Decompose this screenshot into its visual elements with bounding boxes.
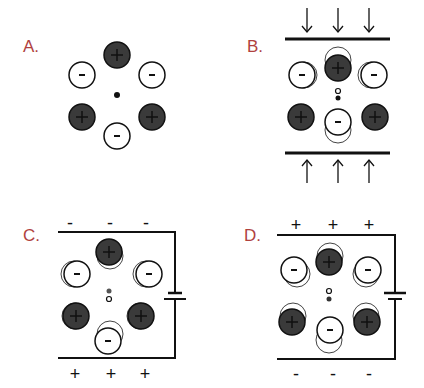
panel-b: B. [247,8,390,183]
panel-a: A. [23,37,165,149]
negative-ion [281,257,307,283]
charge-center [114,92,120,98]
plate-charge: + [140,364,151,384]
panel-label-d: D. [244,226,261,245]
positive-charge-center [327,297,332,302]
positive-charge-center [336,96,341,101]
negative-ion [64,261,90,287]
plate-charge: - [293,364,299,384]
negative-charge-center [336,89,341,94]
plate-charge: + [364,215,375,235]
panel-label-a: A. [23,37,39,56]
positive-ion [288,104,314,130]
positive-ion [128,303,154,329]
positive-ion [96,239,122,265]
positive-ion [139,104,165,130]
positive-ion [316,249,342,275]
positive-ion [69,104,95,130]
negative-ion [104,123,130,149]
negative-ion [355,257,381,283]
plate-charge: - [67,213,73,233]
plate-charge: - [143,213,149,233]
negative-ion [317,317,343,343]
positive-charge-center [107,289,112,294]
positive-ion [104,42,130,68]
plate-charge: + [106,364,117,384]
plate-charge: + [70,364,81,384]
plate-charge: - [107,213,113,233]
panel-d: D. + + + - - - [244,215,406,384]
plate-charge: - [366,364,372,384]
positive-ion [279,309,305,335]
negative-ion [136,261,162,287]
plate-charge: + [328,215,339,235]
positive-ion [362,104,388,130]
panel-label-b: B. [247,37,263,56]
negative-ion [325,109,351,135]
negative-charge-center [327,289,332,294]
force-arrows-bottom [302,160,374,183]
negative-ion [139,62,165,88]
positive-ion [354,309,380,335]
force-arrows-top [302,8,374,32]
plate-charge: - [330,364,336,384]
negative-ion [95,328,121,354]
positive-ion [325,55,351,81]
plate-charge: + [291,215,302,235]
panel-label-c: C. [23,226,40,245]
negative-ion [361,62,387,88]
negative-ion [289,62,315,88]
negative-charge-center [107,297,112,302]
positive-ion [63,303,89,329]
panel-c: C. - - - + + + [23,213,186,384]
negative-ion [69,62,95,88]
piezoelectric-diagram: A. B. [0,0,424,388]
